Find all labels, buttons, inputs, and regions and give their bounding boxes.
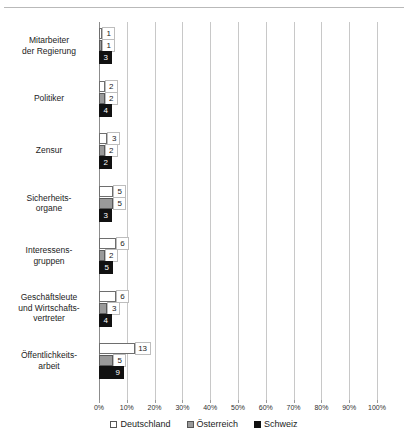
bar-row: 3 <box>99 52 377 63</box>
bar-row: 5 <box>99 355 377 366</box>
bar-row: 9 <box>99 367 377 378</box>
category-label: Zensur <box>3 145 95 156</box>
x-axis: 0%10%20%30%40%50%60%70%80%90%100% <box>99 400 377 414</box>
x-tick-label: 0% <box>94 404 104 411</box>
legend-label: Schweiz <box>264 419 298 429</box>
gray-square-icon <box>187 421 194 428</box>
x-tick-label: 20% <box>148 404 162 411</box>
bar-row: 2 <box>99 157 377 168</box>
bar-row: 2 <box>99 250 377 261</box>
category-label-line: Interessens- <box>3 245 95 256</box>
x-tick <box>349 400 350 403</box>
bar-row: 1 <box>99 40 377 51</box>
legend-item-deutschland[interactable]: Deutschland <box>110 419 170 429</box>
bar-row: 4 <box>99 105 377 116</box>
bar-group: 1359 <box>99 343 377 379</box>
bar-row: 5 <box>99 198 377 209</box>
bar-row: 5 <box>99 186 377 197</box>
bar-row: 2 <box>99 93 377 104</box>
gridline-100% <box>377 22 378 400</box>
category-label-line: Zensur <box>3 145 95 156</box>
x-tick <box>210 400 211 403</box>
x-tick <box>266 400 267 403</box>
category-label: Mitarbeiterder Regierung <box>3 35 95 56</box>
category-label: Sicherheits-organe <box>3 193 95 214</box>
x-tick <box>294 400 295 403</box>
x-tick <box>127 400 128 403</box>
category-label: Geschäftsleuteund Wirtschafts-vertreter <box>3 292 95 324</box>
category-label-line: Öffentlichkeits- <box>3 350 95 361</box>
bar-deutschland <box>99 133 107 144</box>
category-label: Interessens-gruppen <box>3 245 95 266</box>
category-label-line: arbeit <box>3 361 95 372</box>
x-tick-label: 80% <box>314 404 328 411</box>
x-tick-label: 50% <box>231 404 245 411</box>
category-label-line: Politiker <box>3 93 95 104</box>
x-tick <box>238 400 239 403</box>
bar-row: 4 <box>99 315 377 326</box>
category-label: Öffentlichkeits-arbeit <box>3 350 95 371</box>
category-label-line: Geschäftsleute <box>3 292 95 303</box>
bar-group: 224 <box>99 81 377 117</box>
legend-label: Österreich <box>197 419 239 429</box>
top-divider <box>4 7 404 8</box>
data-label: 5 <box>99 261 113 274</box>
bar-group: 553 <box>99 186 377 222</box>
category-label-line: der Regierung <box>3 46 95 57</box>
bar-row: 6 <box>99 238 377 249</box>
bar-row: 13 <box>99 343 377 354</box>
bar-deutschland <box>99 343 135 354</box>
bar-row: 2 <box>99 145 377 156</box>
data-label: 2 <box>99 156 112 169</box>
bar-group: 113 <box>99 28 377 64</box>
bar-row: 5 <box>99 262 377 273</box>
bar-deutschland <box>99 186 113 197</box>
x-tick-label: 40% <box>203 404 217 411</box>
x-tick-label: 30% <box>175 404 189 411</box>
bar-row: 3 <box>99 303 377 314</box>
data-label: 3 <box>99 51 112 64</box>
bar-group: 625 <box>99 238 377 274</box>
x-tick-label: 100% <box>368 404 386 411</box>
white-square-icon <box>110 421 117 428</box>
category-label-line: organe <box>3 203 95 214</box>
category-label-line: Sicherheits- <box>3 193 95 204</box>
category-label-line: Mitarbeiter <box>3 35 95 46</box>
bar-deutschland <box>99 291 116 302</box>
category-label-line: vertreter <box>3 313 95 324</box>
chart-page: 1132243225536256341359 Mitarbeiterder Re… <box>0 0 408 445</box>
bar-group: 634 <box>99 291 377 327</box>
legend-item-schweiz[interactable]: Schweiz <box>254 419 298 429</box>
x-tick-label: 10% <box>120 404 134 411</box>
x-tick <box>155 400 156 403</box>
chart-legend: DeutschlandÖsterreichSchweiz <box>0 419 408 429</box>
legend-label: Deutschland <box>120 419 170 429</box>
black-square-icon <box>254 421 261 428</box>
data-label: 9 <box>99 366 124 379</box>
category-label-line: gruppen <box>3 256 95 267</box>
bar-deutschland <box>99 238 116 249</box>
data-label: 4 <box>99 104 112 117</box>
x-tick-label: 60% <box>259 404 273 411</box>
bar-row: 2 <box>99 81 377 92</box>
plot-area: 1132243225536256341359 <box>99 22 377 400</box>
category-label: Politiker <box>3 93 95 104</box>
x-tick <box>99 400 100 403</box>
data-label: 5 <box>113 197 126 210</box>
data-label: 13 <box>135 342 151 355</box>
bar-row: 1 <box>99 28 377 39</box>
x-tick-label: 70% <box>287 404 301 411</box>
x-tick <box>377 400 378 403</box>
bar-row: 6 <box>99 291 377 302</box>
data-label: 4 <box>99 314 112 327</box>
bar-group: 322 <box>99 133 377 169</box>
bar-österreich <box>99 355 113 366</box>
bar-row: 3 <box>99 133 377 144</box>
data-label: 6 <box>116 237 129 250</box>
bar-row: 3 <box>99 210 377 221</box>
x-tick <box>321 400 322 403</box>
x-tick-label: 90% <box>342 404 356 411</box>
bar-österreich <box>99 198 113 209</box>
legend-item-österreich[interactable]: Österreich <box>187 419 239 429</box>
data-label: 3 <box>99 209 112 222</box>
